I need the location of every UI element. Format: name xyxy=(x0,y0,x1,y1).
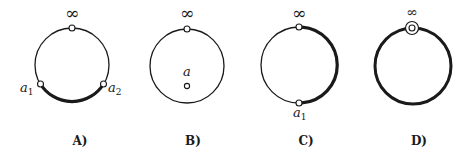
point-a2 xyxy=(101,81,107,87)
panel-b: ∞ a B) xyxy=(150,3,224,148)
point-a-interior xyxy=(184,83,189,88)
infinity-point-a xyxy=(69,25,75,31)
label-a2: a2 xyxy=(108,80,122,97)
infinity-label-a: ∞ xyxy=(65,3,79,23)
label-c-a1: a1 xyxy=(293,105,307,122)
infinity-point-d xyxy=(409,25,415,31)
circle-d xyxy=(375,28,451,104)
infinity-point-c xyxy=(296,24,302,30)
bold-arc-a xyxy=(41,84,104,102)
label-a: a xyxy=(183,64,191,79)
panel-c: ∞ a1 C) xyxy=(261,3,337,148)
caption-b: B) xyxy=(185,134,201,148)
bold-arc-c xyxy=(302,27,337,103)
panel-a: ∞ a1 a2 A) xyxy=(20,3,122,148)
infinity-label-b: ∞ xyxy=(180,3,194,23)
caption-a: A) xyxy=(72,134,88,148)
infinity-point-b xyxy=(184,26,190,32)
infinity-label-d: ∞ xyxy=(406,4,418,20)
caption-d: D) xyxy=(411,134,427,148)
point-a1 xyxy=(38,81,44,87)
infinity-label-c: ∞ xyxy=(292,3,306,23)
label-a1: a1 xyxy=(20,80,34,97)
panel-d: ∞ D) xyxy=(375,4,451,148)
caption-c: C) xyxy=(298,134,313,148)
diagram-canvas: ∞ a1 a2 A) ∞ a B) ∞ a1 C) ∞ D) xyxy=(0,0,474,155)
